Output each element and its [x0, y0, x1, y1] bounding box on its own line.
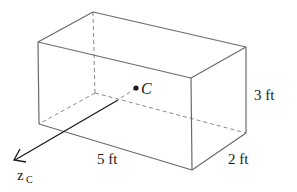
edge-top-left-depth	[38, 12, 93, 42]
axis-subscript: C	[26, 174, 33, 185]
axis-label: z	[17, 167, 24, 183]
length-label: 5 ft	[97, 151, 118, 167]
hidden-edge-bottom-left-depth	[39, 93, 95, 124]
hidden-edge-bottom-back-length	[95, 93, 246, 133]
edge-top-front-length	[38, 42, 191, 78]
edge-front-left-vertical	[38, 42, 39, 124]
height-label: 3 ft	[254, 87, 275, 103]
hidden-axis-segment	[118, 88, 136, 100]
edge-front-right-vertical	[191, 78, 192, 170]
hidden-edge-back-left-vertical	[93, 12, 95, 93]
arrowhead-icon	[14, 149, 26, 162]
centroid-point	[133, 85, 138, 90]
edge-top-back-length	[93, 12, 246, 47]
centroid-label: C	[141, 80, 152, 97]
edge-top-right-depth	[191, 47, 246, 78]
depth-label: 2 ft	[228, 151, 249, 167]
hidden-edges	[39, 12, 246, 133]
box-diagram: C 3 ft 5 ft 2 ft z C	[0, 0, 297, 192]
